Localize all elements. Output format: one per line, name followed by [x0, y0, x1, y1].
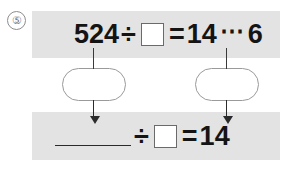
top-dividend: 524: [74, 19, 119, 50]
bottom-divisor-answer-box[interactable]: [154, 125, 177, 148]
bottom-equation: ÷ = 14: [132, 119, 230, 153]
bottom-divide-sign: ÷: [134, 121, 149, 152]
bottom-quotient: 14: [200, 121, 230, 152]
down-arrow-left-icon: [93, 100, 94, 117]
connector-line-right: [226, 48, 227, 69]
top-equals-sign: =: [169, 19, 185, 50]
thought-box-right[interactable]: [195, 68, 259, 101]
top-divisor-answer-box[interactable]: [141, 23, 164, 46]
connector-line-left: [93, 48, 94, 69]
bottom-dividend-blank[interactable]: [55, 145, 131, 146]
top-equation: 524 ÷ = 14 ⋯ 6: [74, 17, 263, 51]
worksheet-problem: ⑤ 524 ÷ = 14 ⋯ 6 ÷ = 14: [0, 0, 288, 172]
problem-number: ⑤: [7, 11, 26, 30]
bottom-equals-sign: =: [182, 121, 198, 152]
remainder-dots-icon: ⋯: [220, 17, 245, 45]
top-remainder: 6: [248, 19, 263, 50]
down-arrow-right-icon: [226, 100, 227, 117]
thought-box-left[interactable]: [62, 68, 126, 101]
top-divide-sign: ÷: [121, 19, 136, 50]
top-quotient: 14: [187, 19, 217, 50]
